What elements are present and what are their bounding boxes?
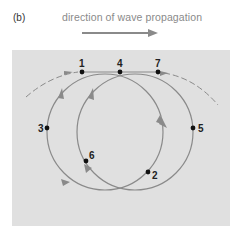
svg-text:3: 3 <box>38 123 44 134</box>
svg-text:1: 1 <box>79 58 85 69</box>
svg-text:4: 4 <box>117 58 123 69</box>
svg-text:7: 7 <box>155 58 161 69</box>
point-1: 1 <box>79 58 85 74</box>
point-4: 4 <box>117 58 123 74</box>
orbit-diagram: 1 4 7 3 5 6 2 <box>0 0 237 239</box>
point-7: 7 <box>155 58 161 74</box>
propagation-arrow-icon <box>82 29 158 37</box>
svg-text:2: 2 <box>152 170 158 181</box>
svg-text:6: 6 <box>89 150 95 161</box>
svg-text:5: 5 <box>198 123 204 134</box>
